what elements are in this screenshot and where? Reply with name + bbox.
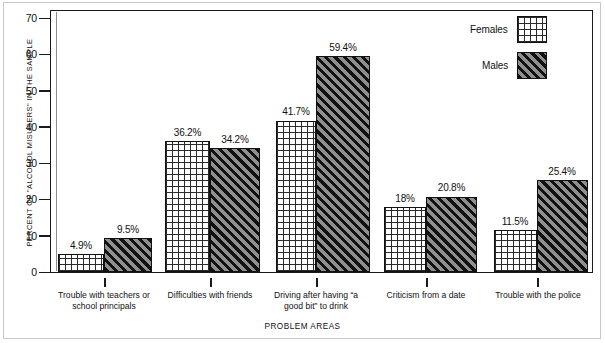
x-tick-1 [104, 278, 106, 287]
x-tick-3 [316, 278, 318, 287]
x-category-line: Trouble with teachers or [44, 290, 164, 301]
x-category-line: school principals [44, 301, 164, 312]
y-tick-70: 70 [0, 12, 50, 24]
x-tick-2 [210, 278, 212, 287]
x-category-label-5: Trouble with the police [480, 290, 596, 301]
y-tick-mark [39, 54, 50, 56]
dark-diagonal-hatch-swatch-icon [517, 52, 547, 79]
x-category-line: Difficulties with friends [152, 290, 268, 301]
y-tick-mark [39, 126, 50, 128]
x-axis-title: PROBLEM AREAS [0, 322, 605, 331]
y-tick-mark [39, 18, 50, 20]
legend-label-females: Females [470, 24, 508, 36]
y-tick-mark [39, 163, 50, 165]
y-axis-title: PERCENT OF "ALCOHOL MISUSERS" IN THE SAM… [25, 28, 34, 258]
y-tick-mark [39, 235, 50, 237]
plot-inner-rule [56, 12, 57, 271]
y-tick-mark [39, 272, 50, 274]
legend-label-males: Males [482, 60, 508, 72]
x-tick-5 [537, 278, 539, 287]
x-category-label-1: Trouble with teachers or school principa… [44, 290, 164, 311]
bar-chart-figure: 0 10 20 30 40 50 60 70 [0, 0, 605, 343]
y-tick-mark [39, 90, 50, 92]
x-tick-4 [426, 278, 428, 287]
y-tick-0: 0 [0, 266, 50, 278]
x-category-line: Criticism from a date [368, 290, 484, 301]
x-category-label-3: Driving after having “a good bit” to dri… [254, 290, 378, 311]
x-category-line: Driving after having “a [254, 290, 378, 301]
y-tick-label: 0 [31, 266, 37, 278]
plot-area [50, 10, 593, 273]
x-category-label-4: Criticism from a date [368, 290, 484, 301]
x-category-line: good bit” to drink [254, 301, 378, 312]
grid-crosshatch-swatch-icon [517, 16, 547, 43]
y-tick-label: 70 [26, 12, 37, 24]
legend-item-males: Males [482, 52, 547, 79]
x-category-label-2: Difficulties with friends [152, 290, 268, 301]
legend-item-females: Females [470, 16, 547, 43]
y-tick-mark [39, 199, 50, 201]
x-category-line: Trouble with the police [480, 290, 596, 301]
